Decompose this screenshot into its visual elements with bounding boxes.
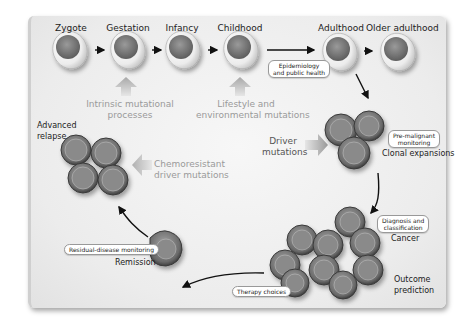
therapy-pill: Therapy choices bbox=[232, 286, 291, 297]
label-gestation: Gestation bbox=[106, 23, 150, 34]
residual-disease-pill: Residual-disease monitoring bbox=[64, 244, 159, 255]
relapse-cluster bbox=[61, 135, 128, 195]
label-zygote: Zygote bbox=[54, 23, 88, 34]
diagnosis-line2: classification bbox=[382, 224, 424, 231]
premalignant-pill: Pre-malignant monitoring bbox=[388, 130, 440, 148]
lifestyle-line2: environmental mutations bbox=[196, 110, 296, 121]
cancer-cluster bbox=[270, 207, 383, 299]
premalignant-line2: monitoring bbox=[393, 139, 435, 146]
clonal-expansions-label: Clonal expansions bbox=[382, 148, 455, 159]
remission-label: Remission bbox=[115, 257, 156, 268]
intrinsic-line1: Intrinsic mutational bbox=[85, 99, 175, 110]
relapse-line1: Advanced bbox=[37, 120, 77, 131]
chemoresistant-line2: driver mutations bbox=[154, 170, 229, 181]
clonal-cluster bbox=[325, 111, 384, 169]
egg-cell-older-adulthood bbox=[376, 28, 421, 75]
outcome-line1: Outcome bbox=[394, 274, 434, 285]
driver-line1: Driver bbox=[262, 136, 304, 147]
relapse-line2: relapse bbox=[37, 131, 77, 142]
epidemiology-pill: Epidemiology and public health bbox=[268, 60, 330, 78]
outcome-line2: prediction bbox=[394, 285, 434, 296]
lifestyle-label: Lifestyle and environmental mutations bbox=[196, 99, 296, 121]
chemoresistant-label: Chemoresistant driver mutations bbox=[154, 159, 229, 181]
driver-arrow bbox=[305, 134, 328, 156]
intrinsic-line2: processes bbox=[85, 110, 175, 121]
epidemiology-line1: Epidemiology bbox=[273, 62, 325, 69]
intrinsic-label: Intrinsic mutational processes bbox=[85, 99, 175, 121]
label-adulthood: Adulthood bbox=[318, 23, 364, 34]
chemoresistant-arrow bbox=[132, 154, 152, 176]
diagnosis-pill: Diagnosis and classification bbox=[377, 215, 429, 233]
label-childhood: Childhood bbox=[216, 23, 264, 34]
relapse-label: Advanced relapse bbox=[37, 120, 77, 142]
outcome-prediction-label: Outcome prediction bbox=[394, 274, 434, 296]
label-older-adulthood: Older adulthood bbox=[366, 23, 430, 34]
epidemiology-line2: and public health bbox=[273, 69, 325, 76]
premalignant-line1: Pre-malignant bbox=[393, 132, 435, 139]
cancer-label: Cancer bbox=[391, 233, 419, 244]
diagnosis-line1: Diagnosis and bbox=[382, 217, 424, 224]
label-infancy: Infancy bbox=[164, 23, 200, 34]
lifestyle-line1: Lifestyle and bbox=[196, 99, 296, 110]
driver-label: Driver mutations bbox=[262, 136, 304, 158]
lifestyle-arrow bbox=[229, 77, 251, 96]
intrinsic-arrow bbox=[115, 77, 137, 96]
driver-line2: mutations bbox=[262, 147, 304, 158]
chemoresistant-line1: Chemoresistant bbox=[154, 159, 229, 170]
